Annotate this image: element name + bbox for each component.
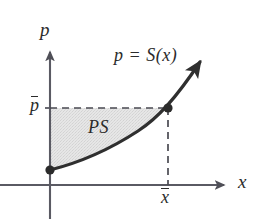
price-level-letter: p: [30, 95, 39, 115]
overbar-accent: [161, 188, 169, 189]
equilibrium-point: [163, 103, 172, 112]
curve-origin-point: [45, 165, 54, 174]
producer-surplus-area: [50, 108, 168, 170]
overbar-accent: [31, 96, 38, 97]
y-axis-label: p: [40, 20, 50, 39]
price-level-label: p: [30, 96, 39, 114]
quantity-level-letter: x: [161, 187, 169, 207]
supply-curve-label: p = S(x): [114, 46, 177, 64]
quantity-level-label: x: [161, 188, 169, 206]
producer-surplus-label: PS: [88, 118, 109, 136]
x-axis-label: x: [238, 172, 246, 191]
producer-surplus-figure: p x p = S(x) PS p x: [0, 0, 266, 219]
